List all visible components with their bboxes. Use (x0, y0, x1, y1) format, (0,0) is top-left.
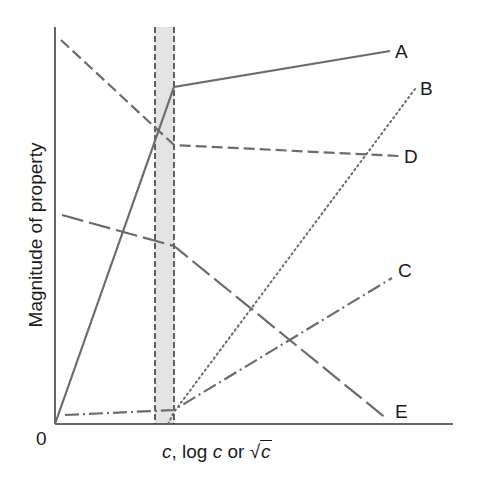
series-c-label: C (398, 261, 412, 280)
sqrt-sign: √ (250, 441, 260, 462)
series-b-line (168, 89, 415, 424)
x-axis-label-c1: c (162, 441, 172, 462)
x-axis-label-sep1: , log (172, 441, 213, 462)
series-a-line (55, 51, 390, 424)
x-axis-label: c, log c or √c (162, 441, 272, 463)
series-d-label: D (404, 147, 418, 166)
series-b-label: B (420, 79, 433, 98)
y-axis-label: Magnitude of property (25, 143, 47, 328)
sqrt-symbol: √c (250, 441, 272, 463)
series-a-label: A (395, 42, 408, 61)
series-c-line (65, 278, 392, 415)
x-axis-label-sep2: or (222, 441, 249, 462)
series-e-line (62, 215, 387, 419)
x-axis-label-c3: c (260, 440, 272, 462)
critical-region-band (155, 27, 174, 424)
x-axis-label-c2: c (213, 441, 223, 462)
series-e-label: E (395, 402, 408, 421)
origin-label: 0 (36, 429, 47, 448)
